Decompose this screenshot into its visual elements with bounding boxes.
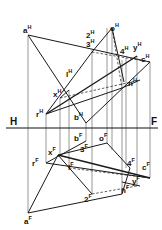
label-nF: nF <box>121 184 130 195</box>
label-cH: cH <box>141 53 149 64</box>
label-yH: yH <box>133 41 141 52</box>
label-1H: lH <box>66 68 72 79</box>
label-oF: oF <box>99 132 108 143</box>
label-rH: rH <box>36 108 43 119</box>
label-bF: bF <box>74 132 83 143</box>
label-xF: xF <box>48 146 56 157</box>
label-2F: 2F <box>84 193 92 204</box>
label-aF: aF <box>24 215 32 226</box>
label-cF: cF <box>142 161 150 172</box>
label-4F: 4F <box>127 157 135 168</box>
label-yF: yF <box>132 175 140 186</box>
fold-label-h: H <box>10 116 17 127</box>
label-nH: nH <box>128 77 137 88</box>
label-bH: bH <box>74 111 83 122</box>
labels-horizontal: aH 2H 3H oH 4H yH cH lH xH nH rH bH <box>23 22 149 122</box>
labels-frontal: bF oF xF 3F rF lF 4F cF yF nF 2F aF <box>24 132 150 226</box>
label-3F: 3F <box>80 143 88 154</box>
label-3H: 3H <box>86 38 94 49</box>
label-rF: rF <box>32 157 39 168</box>
descriptive-geometry-drawing: aH 2H 3H oH 4H yH cH lH xH nH rH bH H F … <box>0 0 162 230</box>
label-aH: aH <box>23 24 31 35</box>
fold-label-f: F <box>151 116 157 127</box>
label-4H: 4H <box>120 45 128 56</box>
label-oH: oH <box>110 22 119 33</box>
